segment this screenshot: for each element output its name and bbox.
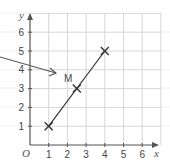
x-tick-label: 6 [139,149,145,160]
origin-label: O [22,147,30,159]
y-axis-label: y [18,9,24,21]
pointer-arrow-icon [0,57,56,76]
x-tick-label: 3 [83,149,89,160]
y-tick-label: 2 [18,102,24,113]
y-tick-label: 6 [18,27,24,38]
y-tick-label: 1 [18,121,24,132]
y-tick-label: 3 [18,83,24,94]
y-axis-arrow-icon [27,13,33,20]
midpoint-label: M [64,73,72,84]
x-axis-label: x [153,147,159,159]
x-tick-label: 1 [46,149,52,160]
y-tick-label: 5 [18,46,24,57]
x-tick-label: 2 [65,149,71,160]
x-tick-label: 5 [121,149,127,160]
y-tick-label: 4 [18,64,24,75]
coordinate-diagram: 1 2 3 4 5 6 1 2 3 4 5 6 x y O M [0,0,170,164]
x-tick-label: 4 [102,149,108,160]
